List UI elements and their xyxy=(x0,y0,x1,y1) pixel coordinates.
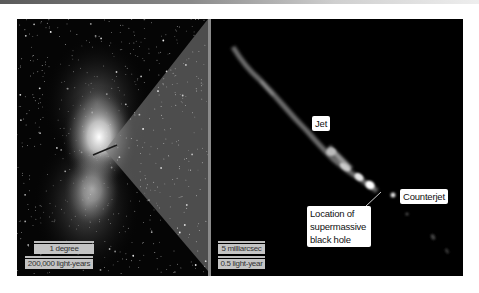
star xyxy=(141,42,142,43)
star xyxy=(185,180,186,181)
star xyxy=(168,54,169,55)
star xyxy=(44,81,45,82)
star xyxy=(188,170,189,171)
star xyxy=(144,60,145,61)
scale-bar-light-years: 200,000 light-years xyxy=(25,256,93,269)
star xyxy=(198,19,199,20)
star xyxy=(24,29,25,30)
star xyxy=(179,166,180,167)
star xyxy=(178,140,179,141)
star xyxy=(202,162,203,163)
star xyxy=(149,154,150,155)
star xyxy=(48,19,49,20)
star xyxy=(144,19,145,20)
star xyxy=(33,60,34,61)
star xyxy=(199,230,200,231)
star xyxy=(177,264,178,265)
star xyxy=(201,90,202,91)
star xyxy=(29,175,30,176)
star xyxy=(32,36,33,37)
star xyxy=(195,268,196,269)
star xyxy=(20,221,21,222)
star xyxy=(161,115,162,116)
star xyxy=(198,170,199,171)
star xyxy=(18,68,19,69)
star xyxy=(145,178,146,179)
star xyxy=(164,183,165,184)
star xyxy=(198,51,199,52)
star xyxy=(194,35,195,36)
star xyxy=(170,196,171,197)
star xyxy=(22,142,23,143)
star xyxy=(179,197,180,198)
star xyxy=(186,204,188,206)
star xyxy=(157,205,158,206)
star xyxy=(158,52,159,53)
star xyxy=(175,75,176,76)
star xyxy=(160,52,161,53)
star xyxy=(49,28,50,29)
star xyxy=(154,209,155,210)
star xyxy=(131,260,132,261)
star xyxy=(49,66,50,67)
star xyxy=(47,272,48,273)
star xyxy=(160,192,161,193)
black-hole-label-line: Location of xyxy=(310,207,368,220)
star xyxy=(201,79,202,80)
star xyxy=(204,20,205,21)
star xyxy=(176,39,177,40)
star xyxy=(140,186,141,187)
star xyxy=(176,31,177,32)
star xyxy=(151,231,153,233)
star xyxy=(161,256,162,257)
star xyxy=(153,182,154,183)
star xyxy=(20,106,21,107)
star xyxy=(117,160,118,161)
star xyxy=(138,267,139,268)
star xyxy=(39,132,40,133)
star xyxy=(37,35,38,36)
star xyxy=(177,26,178,27)
star xyxy=(39,87,41,89)
star xyxy=(179,232,181,234)
star xyxy=(32,56,33,57)
star xyxy=(40,254,41,255)
star xyxy=(111,32,112,33)
star xyxy=(144,142,145,143)
star xyxy=(33,73,34,74)
jet-zoom-image: Jet Counterjet Location of supermassive … xyxy=(211,19,463,276)
star xyxy=(133,43,134,44)
star xyxy=(203,271,204,272)
star xyxy=(20,119,22,121)
star xyxy=(29,179,30,180)
star xyxy=(178,145,179,146)
star xyxy=(65,44,66,45)
star xyxy=(147,184,148,185)
star xyxy=(149,53,150,54)
star xyxy=(172,143,173,144)
star xyxy=(128,28,129,29)
star xyxy=(169,53,170,54)
scale-bar-label: 200,000 light-years xyxy=(25,259,93,269)
star xyxy=(19,94,21,96)
scale-bar-line xyxy=(218,241,265,243)
star xyxy=(33,23,35,25)
star xyxy=(126,138,127,139)
star xyxy=(157,269,158,270)
star xyxy=(150,228,151,229)
star xyxy=(134,114,135,115)
star xyxy=(70,31,71,32)
star xyxy=(35,122,36,123)
star xyxy=(23,119,24,120)
star xyxy=(164,130,165,131)
star xyxy=(192,26,193,27)
star xyxy=(146,188,147,189)
star xyxy=(43,76,44,77)
star xyxy=(157,148,158,149)
star xyxy=(194,132,195,133)
star xyxy=(37,59,38,60)
star xyxy=(157,258,158,259)
star xyxy=(22,175,23,176)
star xyxy=(182,196,183,197)
star xyxy=(163,84,164,85)
